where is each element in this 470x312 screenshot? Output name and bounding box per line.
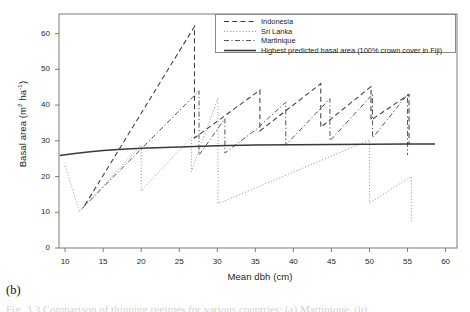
- data-series-group: [60, 27, 435, 223]
- legend-item: Highest predicted basal area (100% crown…: [216, 46, 455, 55]
- y-tick-label: 40: [24, 100, 50, 109]
- y-tick-label: 30: [24, 136, 50, 145]
- x-tick-label: 25: [166, 257, 192, 266]
- y-tick-label: 20: [24, 172, 50, 181]
- x-tick-label: 15: [90, 257, 116, 266]
- legend-item: Sri Lanka: [216, 27, 455, 36]
- series-line-sri: [65, 98, 411, 223]
- x-tick-label: 45: [318, 257, 344, 266]
- x-tick-label: 50: [356, 257, 382, 266]
- x-tick-label: 60: [433, 257, 459, 266]
- legend-item: Martinique: [216, 36, 455, 45]
- x-tick-label: 10: [52, 257, 78, 266]
- y-tick-label: 60: [24, 29, 50, 38]
- legend-swatch-icon: [223, 36, 257, 45]
- y-axis-title: Basal area (m2 ha-1): [16, 64, 28, 184]
- chart-legend: IndonesiaSri LankaMartiniqueHighest pred…: [215, 14, 456, 53]
- series-line-martinique: [82, 91, 408, 209]
- x-axis-title: Mean dbh (cm): [200, 271, 320, 282]
- legend-swatch-icon: [223, 46, 257, 55]
- legend-label: Indonesia: [261, 17, 293, 26]
- legend-item: Indonesia: [216, 17, 455, 26]
- y-tick-label: 0: [24, 243, 50, 252]
- axis-ticks: [55, 34, 446, 252]
- x-tick-label: 30: [204, 257, 230, 266]
- x-tick-label: 40: [280, 257, 306, 266]
- x-tick-label: 55: [395, 257, 421, 266]
- x-tick-label: 20: [128, 257, 154, 266]
- legend-swatch-icon: [223, 17, 257, 26]
- legend-label: Highest predicted basal area (100% crown…: [261, 46, 442, 55]
- legend-label: Martinique: [261, 36, 296, 45]
- y-tick-label: 50: [24, 64, 50, 73]
- figure-caption: Fig. 3.3 Comparison of thinning regimes …: [6, 303, 468, 312]
- y-tick-label: 10: [24, 207, 50, 216]
- legend-swatch-icon: [223, 27, 257, 36]
- legend-label: Sri Lanka: [261, 27, 292, 36]
- x-tick-label: 35: [242, 257, 268, 266]
- panel-label: (b): [6, 283, 21, 298]
- figure-panel: Basal area (m2 ha-1) Mean dbh (cm) 01020…: [0, 0, 470, 312]
